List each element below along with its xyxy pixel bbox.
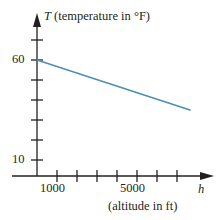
y-axis-caption-rest: (temperature in °F) — [51, 9, 150, 23]
x-axis — [12, 172, 214, 180]
x-tick-label-1000: 1000 — [40, 182, 65, 195]
x-axis-caption: (altitude in ft) — [108, 200, 177, 213]
chart-canvas — [0, 0, 221, 220]
y-axis — [33, 13, 41, 176]
y-tick-label-10: 10 — [12, 153, 25, 166]
data-series-line — [37, 60, 190, 110]
temperature-altitude-chart: T (temperature in °F) 60 10 1000 5000 h … — [0, 0, 221, 220]
x-axis-symbol: h — [198, 183, 204, 196]
x-tick-label-5000: 5000 — [120, 182, 145, 195]
y-axis-label: T (temperature in °F) — [44, 10, 150, 23]
y-axis-arrowhead — [33, 13, 41, 27]
x-axis-arrowhead — [200, 172, 214, 180]
y-tick-label-60: 60 — [12, 53, 25, 66]
y-axis-variable: T — [44, 9, 51, 23]
